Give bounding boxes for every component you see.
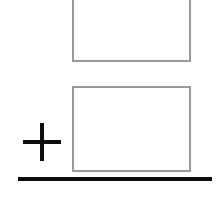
plus-sign-icon <box>23 123 61 161</box>
plus-vertical-bar <box>40 123 44 161</box>
lower-rectangle <box>72 86 191 172</box>
upper-rectangle <box>72 0 191 62</box>
ground-baseline <box>18 177 212 181</box>
diagram-canvas <box>0 0 221 202</box>
